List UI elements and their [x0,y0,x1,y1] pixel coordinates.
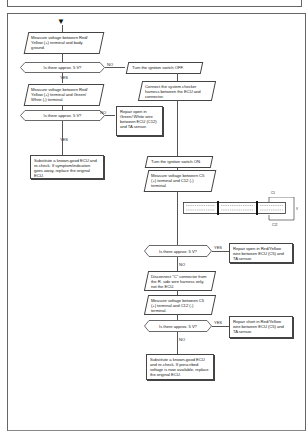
decision-q2: Is there approx. 5 V? [20,110,105,121]
result-substitute-ecu-2: Substitute a known-good ECU and re-check… [146,354,214,380]
decision-q3: Is there approx. 5 V? [144,245,212,257]
step-measure-c5-c12-again: Measure voltage between C5 (+) terminal … [144,295,216,315]
connector-line [62,121,63,155]
start-arrow-icon: ▼ [57,18,65,26]
connector-line [62,53,63,62]
step-measure-redyellow-ground: Measure voltage between Red/ Yellow (+) … [24,32,105,54]
step-ignition-on: Turn the ignition switch ON. [145,156,214,168]
connector-line [177,73,178,81]
result-repair-short-redyellow: Repair short in Red/Yellow wire between … [229,316,293,338]
no-label: NO [179,338,185,342]
connector-line [62,25,63,32]
connector-line [212,251,229,252]
result-repair-open-redyellow: Repair open in Red/Yellow wire between E… [229,243,293,263]
decision-q4: Is there approx. 5 V? [144,320,212,332]
ecu-connector-diagram [183,197,308,227]
ecu-connector-icon [183,197,308,227]
step-measure-c5-c12: Measure voltage between C5 (+) terminal … [144,170,217,192]
connector-label-c12: C12 [272,223,278,227]
connector-line [212,326,229,327]
connector-line [177,100,178,156]
result-repair-greenwhite: Repair open in Green/ White wire between… [116,106,163,136]
yes-label: YES [214,321,222,325]
connector-line [177,191,178,245]
connector-line [105,115,115,116]
yes-label: YES [214,246,222,250]
previous-page-frame [7,0,302,7]
decision-q1: Is there approx. 5 V? [20,62,105,73]
connector-line [62,73,63,83]
step-measure-redyellow-greenwhite: Measure voltage between Red/ Yellow (+) … [24,84,105,106]
connector-line [177,332,178,354]
no-label: NO [179,263,185,267]
result-substitute-ecu-1: Substitute a known-good ECU and re-check… [30,155,104,179]
step-ignition-off: Turn the ignition switch OFF. [126,62,204,74]
step-disconnect-c-connector: Disconnect "C" connector from the R. sid… [144,271,216,291]
connector-label-c5: C5 [271,191,275,195]
voltmeter-label: V [296,207,298,211]
step-connect-checker: Connect the system checker harness betwe… [138,81,216,101]
connector-line [177,257,178,271]
connector-line [105,67,125,68]
